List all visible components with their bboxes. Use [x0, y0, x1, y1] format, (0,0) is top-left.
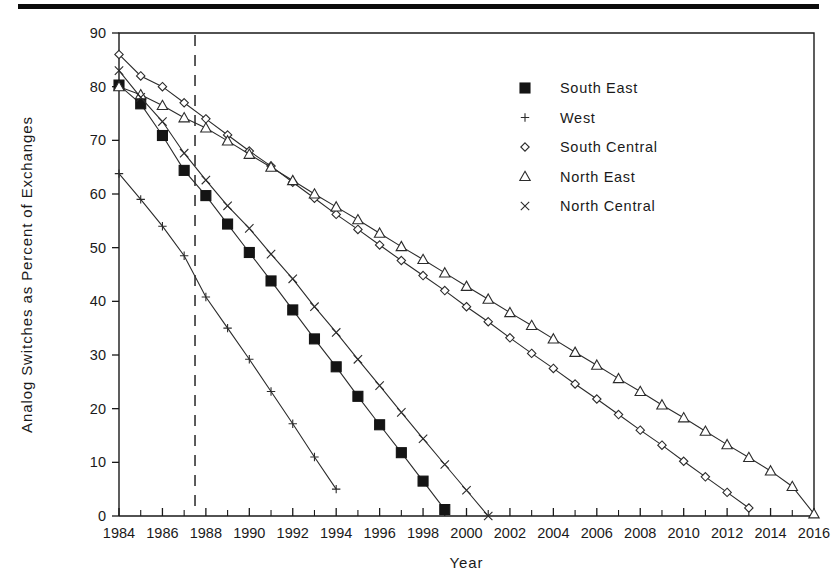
marker-diamond	[636, 426, 644, 434]
legend-label: South East	[560, 80, 638, 96]
marker-triangle	[331, 202, 341, 211]
legend: South EastWestSouth CentralNorth EastNor…	[520, 80, 658, 214]
marker-x-cross	[180, 149, 188, 157]
marker-x-cross	[245, 224, 253, 232]
series-path	[119, 54, 749, 507]
x-tick-label: 1998	[407, 525, 439, 541]
axis-box	[119, 33, 814, 516]
marker-diamond	[549, 364, 557, 372]
marker-diamond	[441, 286, 449, 294]
marker-x-cross	[332, 328, 340, 336]
x-tick-label: 2016	[798, 525, 830, 541]
series-south-east	[114, 80, 450, 515]
marker-diamond	[375, 241, 383, 249]
marker-triangle	[483, 294, 493, 303]
marker-plus	[267, 387, 275, 395]
marker-plus	[289, 419, 297, 427]
marker-filled-square	[331, 362, 341, 372]
marker-diamond	[506, 334, 514, 342]
x-axis-title: Year	[450, 554, 484, 571]
marker-diamond	[593, 395, 601, 403]
marker-diamond	[679, 457, 687, 465]
marker-triangle	[678, 413, 688, 422]
marker-x-cross	[521, 202, 529, 210]
marker-diamond	[614, 410, 622, 418]
legend-label: North Central	[560, 198, 655, 214]
x-tick-label: 1988	[190, 525, 222, 541]
marker-x-cross	[289, 275, 297, 283]
x-tick-label: 2010	[668, 525, 700, 541]
marker-x-cross	[158, 117, 166, 125]
y-tick-label: 20	[90, 401, 106, 417]
x-tick-label: 2002	[494, 525, 526, 541]
legend-item-south-central[interactable]: South Central	[521, 139, 658, 155]
y-tick-label: 30	[90, 347, 106, 363]
marker-plus	[310, 453, 318, 461]
marker-filled-square	[309, 334, 319, 344]
marker-triangle	[418, 254, 428, 263]
x-tick-label: 1984	[103, 525, 135, 541]
y-axis: 0102030405060708090	[90, 25, 119, 524]
marker-x-cross	[462, 486, 470, 494]
marker-diamond	[723, 488, 731, 496]
marker-triangle	[744, 452, 754, 461]
marker-filled-square	[157, 131, 167, 141]
marker-triangle	[353, 215, 363, 224]
x-tick-label: 1992	[277, 525, 309, 541]
marker-triangle	[461, 281, 471, 290]
marker-diamond	[658, 441, 666, 449]
marker-diamond	[397, 256, 405, 264]
marker-triangle	[613, 373, 623, 382]
line-chart: 0102030405060708090198419861988199019921…	[0, 0, 837, 586]
series-north-central	[115, 66, 493, 520]
series-path	[119, 85, 445, 510]
x-tick-label: 2004	[537, 525, 569, 541]
series-north-east	[114, 81, 819, 517]
marker-triangle	[700, 426, 710, 435]
legend-label: South Central	[560, 139, 658, 155]
legend-item-west[interactable]: West	[521, 110, 596, 126]
marker-filled-square	[520, 83, 530, 93]
x-tick-label: 1990	[233, 525, 265, 541]
marker-plus	[245, 355, 253, 363]
legend-item-south-east[interactable]: South East	[520, 80, 638, 96]
marker-filled-square	[201, 191, 211, 201]
marker-filled-square	[266, 276, 276, 286]
marker-diamond	[527, 349, 535, 357]
marker-triangle	[440, 268, 450, 277]
x-tick-label: 2000	[450, 525, 482, 541]
marker-filled-square	[353, 391, 363, 401]
marker-triangle	[526, 320, 536, 329]
marker-filled-square	[396, 448, 406, 458]
series-path	[119, 71, 488, 516]
marker-filled-square	[223, 219, 233, 229]
legend-item-north-east[interactable]: North East	[520, 169, 636, 185]
legend-label: West	[560, 110, 596, 126]
marker-diamond	[484, 318, 492, 326]
marker-diamond	[180, 99, 188, 107]
marker-diamond	[158, 82, 166, 90]
plot-frame	[119, 33, 814, 516]
x-tick-label: 1996	[363, 525, 395, 541]
marker-triangle	[548, 334, 558, 343]
marker-diamond	[745, 504, 753, 512]
legend-label: North East	[560, 169, 636, 185]
marker-triangle	[179, 113, 189, 122]
y-tick-label: 60	[90, 186, 106, 202]
legend-item-north-central[interactable]: North Central	[521, 198, 656, 214]
marker-triangle	[396, 241, 406, 250]
marker-triangle	[201, 123, 211, 132]
y-tick-label: 90	[90, 25, 106, 41]
marker-triangle	[374, 228, 384, 237]
marker-diamond	[701, 473, 709, 481]
marker-triangle	[309, 189, 319, 198]
marker-x-cross	[419, 435, 427, 443]
marker-filled-square	[440, 505, 450, 515]
marker-triangle	[765, 466, 775, 475]
marker-x-cross	[375, 381, 383, 389]
y-axis-title: Analog Switches as Percent of Exchanges	[18, 116, 35, 433]
marker-triangle	[657, 400, 667, 409]
x-axis: 1984198619881990199219941996199820002002…	[103, 508, 830, 541]
x-tick-label: 2008	[624, 525, 656, 541]
marker-filled-square	[375, 420, 385, 430]
